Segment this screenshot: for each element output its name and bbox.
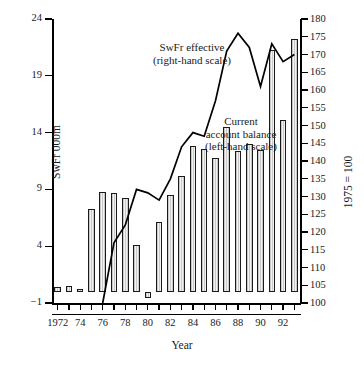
- right-tick-label: 120: [310, 227, 326, 238]
- x-tick: [125, 304, 126, 310]
- bar: [269, 50, 276, 292]
- bar: [291, 39, 298, 291]
- right-tick: [301, 267, 308, 268]
- bar: [257, 150, 264, 292]
- current-account-annotation-line3: (left-hand scale): [182, 140, 300, 153]
- right-tick-label: 140: [310, 156, 326, 167]
- right-tick: [301, 107, 308, 108]
- x-tick: [215, 304, 216, 310]
- chart-figure: −149141924 10010511011512012513013514014…: [0, 0, 364, 369]
- right-tick-label: 125: [310, 209, 326, 220]
- left-tick-label: 19: [32, 70, 43, 81]
- right-tick: [301, 196, 308, 197]
- right-tick-label: 105: [310, 280, 326, 291]
- bar: [190, 146, 197, 291]
- x-tick: [57, 304, 58, 310]
- right-tick-label: 130: [310, 192, 326, 203]
- y-axis-label-right: 1975 = 100: [342, 122, 354, 242]
- left-tick-label: 9: [37, 183, 42, 194]
- right-tick: [301, 231, 308, 232]
- left-tick-label: 24: [32, 13, 43, 24]
- bar: [246, 144, 253, 292]
- x-tick: [68, 304, 69, 310]
- right-tick-label: 100: [310, 298, 326, 309]
- right-tick: [301, 54, 308, 55]
- left-tick-label: −1: [31, 297, 42, 308]
- right-tick-label: 170: [310, 50, 326, 61]
- right-tick-label: 145: [310, 138, 326, 149]
- right-tick: [301, 178, 308, 179]
- bar: [212, 158, 219, 292]
- x-tick: [237, 304, 238, 310]
- right-tick: [301, 302, 308, 303]
- x-tick: [260, 304, 261, 310]
- right-tick: [301, 285, 308, 286]
- right-tick-label: 115: [310, 245, 325, 256]
- bar: [77, 289, 84, 291]
- x-tick: [249, 304, 250, 310]
- right-tick-label: 175: [310, 32, 326, 43]
- x-tick: [113, 304, 114, 310]
- bar: [201, 149, 208, 292]
- right-tick-label: 180: [310, 14, 326, 25]
- x-tick: [158, 304, 159, 310]
- x-tick-label: 92: [261, 317, 305, 328]
- x-tick: [170, 304, 171, 310]
- right-tick: [301, 36, 308, 37]
- right-tick: [301, 160, 308, 161]
- x-tick: [181, 304, 182, 310]
- right-tick: [301, 143, 308, 144]
- left-tick-label: 14: [32, 127, 43, 138]
- y-axis-label-left: SwFr 000m: [50, 92, 62, 212]
- x-tick: [102, 304, 103, 310]
- bottom-axis-line: [52, 303, 301, 305]
- right-tick-label: 135: [310, 174, 326, 185]
- baseline-rule: [52, 314, 301, 315]
- left-tick-label: 4: [37, 240, 42, 251]
- bar: [145, 292, 152, 299]
- right-tick-label: 155: [310, 103, 326, 114]
- bar: [66, 286, 73, 292]
- current-account-annotation-line2: account balance: [182, 128, 300, 141]
- x-axis-label: Year: [0, 339, 364, 351]
- right-tick-label: 160: [310, 85, 326, 96]
- bar: [54, 287, 61, 292]
- right-tick: [301, 249, 308, 250]
- right-tick: [301, 89, 308, 90]
- x-tick: [282, 304, 283, 310]
- right-tick-label: 110: [310, 263, 325, 274]
- current-account-annotation-line1: Current: [182, 115, 300, 128]
- bar: [235, 151, 242, 292]
- bar: [111, 193, 118, 292]
- bar: [99, 192, 106, 292]
- swfr-effective-annotation-line1: SwFr effective: [132, 41, 252, 54]
- x-tick: [294, 304, 295, 310]
- right-tick-label: 165: [310, 67, 326, 78]
- bar: [178, 176, 185, 292]
- x-tick: [136, 304, 137, 310]
- bar: [156, 222, 163, 291]
- right-tick: [301, 125, 308, 126]
- x-tick: [147, 304, 148, 310]
- x-tick: [204, 304, 205, 310]
- bar: [122, 198, 129, 291]
- x-tick: [271, 304, 272, 310]
- left-tick: [45, 18, 52, 19]
- bar: [133, 245, 140, 292]
- right-tick: [301, 72, 308, 73]
- left-tick: [45, 246, 52, 247]
- bar: [167, 195, 174, 292]
- left-tick: [45, 75, 52, 76]
- right-tick: [301, 18, 308, 19]
- right-tick-label: 150: [310, 121, 326, 132]
- left-tick: [45, 302, 52, 303]
- current-account-annotation: Current account balance (left-hand scale…: [182, 115, 300, 153]
- bar: [88, 209, 95, 292]
- x-tick: [91, 304, 92, 310]
- x-tick: [226, 304, 227, 310]
- swfr-effective-annotation: SwFr effective (right-hand scale): [132, 41, 252, 66]
- x-tick: [80, 304, 81, 310]
- x-tick: [192, 304, 193, 310]
- swfr-effective-annotation-line2: (right-hand scale): [132, 54, 252, 67]
- right-tick: [301, 214, 308, 215]
